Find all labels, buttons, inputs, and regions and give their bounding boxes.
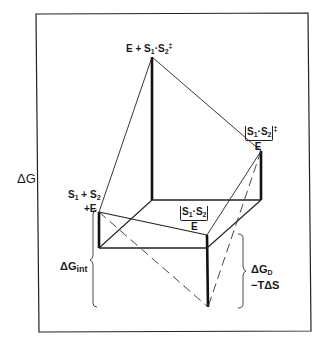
label-text: ·S: [155, 43, 165, 54]
bracket-complex-ts: S1·S2: [245, 126, 273, 141]
label-sub: 2: [268, 131, 272, 138]
label-sup: ‡: [273, 125, 277, 132]
label-text: ΔG: [251, 263, 267, 275]
label-transition-state-complex: S1·S2‡ E: [245, 123, 277, 152]
label-substrates-bound: S1·S2 E: [180, 206, 208, 232]
edge-right-base: [207, 200, 261, 248]
label-entropy-term: −TΔS: [251, 279, 279, 292]
label-text: S: [68, 189, 75, 200]
label-sub: 1: [254, 131, 258, 138]
bracket-complex: S1·S2: [180, 206, 208, 221]
label-enzyme: E: [180, 221, 208, 232]
label-text: E + S: [126, 43, 151, 54]
brace-left: [90, 210, 97, 307]
label-sub: int: [76, 264, 87, 274]
label-sub: 2: [97, 194, 101, 201]
edge-ts-to-substrates: [99, 57, 152, 212]
label-text: + S: [79, 189, 97, 200]
label-delta-g-d: ΔGD −TΔS: [251, 263, 279, 292]
label-sup: ‡: [169, 42, 173, 49]
label-substrates-free: S1 + S2 +E: [68, 189, 101, 214]
label-text: +E: [68, 203, 101, 214]
label-enzyme: E: [245, 141, 277, 152]
label-transition-state-free: E + S1·S2‡: [126, 40, 172, 57]
brace-right: [238, 234, 246, 308]
axis-label-delta-g: ΔG: [17, 173, 36, 184]
label-delta-g-int: ΔGint: [60, 261, 87, 275]
label-sub: 2: [203, 211, 207, 218]
label-sub: 1: [189, 211, 193, 218]
label-sub: 2: [165, 48, 169, 55]
edge-left-base: [99, 200, 152, 248]
label-sub: D: [267, 269, 272, 276]
edge-complex-ts-to-bound: [207, 151, 261, 235]
label-text: ΔG: [60, 260, 76, 272]
vertical-substrates-bound: [207, 235, 208, 307]
